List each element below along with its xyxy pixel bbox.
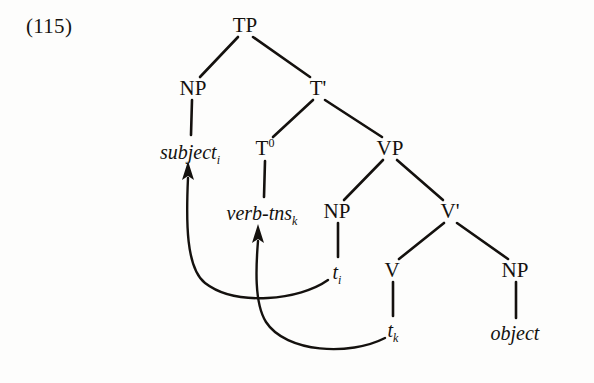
tree-node-v: V [384,260,399,281]
trace-i: ti [333,262,342,282]
branch-vbar-v [399,223,444,259]
tree-node-np-subject: NP [180,78,207,99]
branch-tbar-vp [325,100,382,137]
branch-tp-tbar [253,37,310,77]
branch-vbar-np [457,223,508,259]
branch-tp-np [200,37,238,77]
branch-vp-vbar [397,160,443,200]
terminal-verb-tns: verb-tnsk [227,203,298,223]
terminal-object: object [491,323,540,343]
tree-node-tbar: T' [310,78,327,99]
tree-node-tp: TP [233,15,258,36]
terminal-subject: subjecti [160,142,220,162]
tree-node-vp: VP [377,138,404,159]
tree-node-np-trace: NP [324,201,351,222]
tree-node-vbar: V' [441,201,460,222]
trace-k-index: k [393,331,398,345]
subject-index: i [217,153,220,167]
tree-node-np-object: NP [502,260,529,281]
verb-tns-index: k [292,214,297,228]
trace-i-index: i [338,273,341,287]
trace-k: tk [388,320,399,340]
branch-np-subject [191,100,192,135]
branch-vp-np [344,160,383,200]
tree-node-t0: T0 [256,138,275,159]
figure-canvas: (115) [0,0,594,383]
t0-superscript: 0 [268,136,274,150]
branch-tbar-t0 [273,100,313,137]
branch-t0-verbtns [264,161,265,197]
